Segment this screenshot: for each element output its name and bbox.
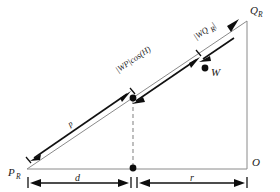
label-point-q: Q	[250, 4, 258, 16]
geometry-figure: P R Q R O W |WP|cos(H) |WQ R | p d r	[0, 0, 280, 192]
diagonal-arrow-p-line	[34, 94, 127, 158]
diagonal-arrow-p-head-lower	[30, 154, 41, 161]
wp-cos-arrow-line	[136, 60, 196, 101]
label-segment-p: p	[65, 119, 74, 129]
label-segment-wq-group: |WQ R |	[192, 20, 219, 44]
point-w	[202, 65, 209, 72]
dim-d-arrow-right	[118, 179, 129, 187]
label-segment-wq: |WQ	[192, 25, 210, 42]
dim-d-arrow-left	[30, 179, 41, 187]
label-dimension-d: d	[75, 172, 81, 183]
point-base-foot	[130, 165, 137, 172]
hypotenuse-tick-p	[26, 157, 31, 163]
label-point-q-subscript: R	[257, 10, 263, 19]
label-segment-wp-cos: |WP|cos(H)	[114, 44, 153, 75]
dim-r-arrow-right	[234, 179, 245, 187]
label-point-p: P	[7, 166, 15, 178]
hypotenuse-tick-mid	[130, 88, 135, 94]
point-hypotenuse-mid	[130, 95, 137, 102]
figure-canvas: P R Q R O W |WP|cos(H) |WQ R | p d r	[0, 0, 280, 192]
dim-r-arrow-left	[139, 179, 150, 187]
wq-arrow-line	[203, 38, 234, 59]
label-point-p-subscript: R	[15, 172, 21, 181]
label-point-w: W	[211, 66, 221, 78]
label-point-o: O	[252, 156, 260, 168]
label-dimension-r: r	[190, 172, 194, 183]
triangle-hypotenuse-line	[27, 21, 247, 169]
